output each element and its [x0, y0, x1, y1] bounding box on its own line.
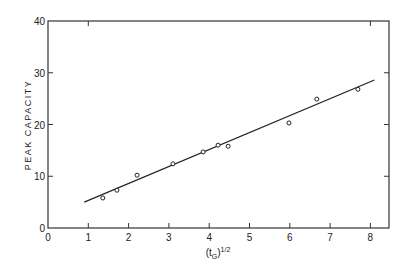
tick-labels: 012345678010203040 — [34, 16, 374, 243]
data-point — [356, 87, 360, 91]
x-axis-label: (tG)1/2 — [206, 246, 231, 260]
x-tick-label: 6 — [287, 232, 293, 243]
x-tick-label: 0 — [45, 232, 51, 243]
y-tick-label: 10 — [34, 171, 46, 182]
y-tick-label: 20 — [34, 120, 46, 131]
x-label-sup: 1/2 — [221, 246, 231, 253]
fit-line — [84, 80, 374, 202]
y-tick-label: 40 — [34, 16, 46, 27]
axis-ticks — [48, 21, 389, 228]
plot-border — [48, 21, 389, 228]
y-tick-label: 0 — [39, 223, 45, 234]
data-point — [201, 150, 205, 154]
data-point — [115, 188, 119, 192]
data-point — [226, 144, 230, 148]
data-point — [101, 196, 105, 200]
x-tick-label: 1 — [86, 232, 92, 243]
x-tick-label: 3 — [166, 232, 172, 243]
data-point — [315, 97, 319, 101]
x-tick-label: 2 — [126, 232, 132, 243]
chart-canvas: 012345678010203040 — [0, 0, 406, 271]
data-point — [135, 173, 139, 177]
data-points — [101, 87, 360, 200]
x-tick-label: 7 — [327, 232, 333, 243]
plot-frame — [48, 21, 389, 228]
regression-line — [84, 80, 374, 202]
data-point — [287, 121, 291, 125]
x-tick-label: 8 — [368, 232, 374, 243]
x-tick-label: 4 — [206, 232, 212, 243]
y-tick-label: 30 — [34, 68, 46, 79]
data-point — [171, 162, 175, 166]
x-tick-label: 5 — [247, 232, 253, 243]
data-point — [216, 143, 220, 147]
y-axis-label: PEAK CAPACITY — [23, 80, 33, 170]
